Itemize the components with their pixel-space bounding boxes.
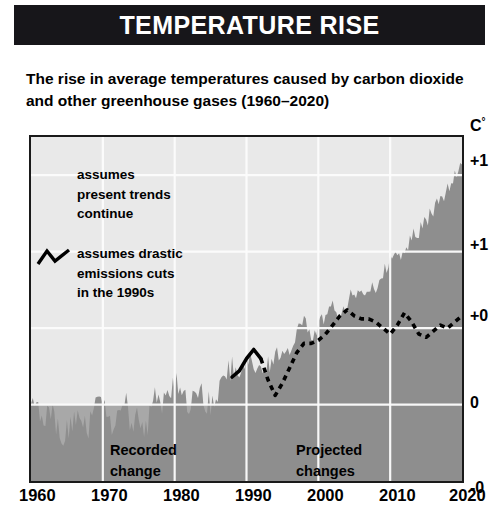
band-projected-line1: Projected <box>296 440 362 461</box>
band-label-recorded-change: Recorded change <box>110 440 177 481</box>
x-axis-tick-label: 2000 <box>307 486 344 505</box>
band-recorded-line2: change <box>110 461 177 482</box>
legend-emissions-cuts-line2: emissions cuts <box>77 264 183 284</box>
band-projected-line2: changes <box>296 461 362 482</box>
y-axis-tick-label: +1 <box>470 152 488 170</box>
temperature-rise-chart: C° +1 +1 +0 0 -0 1960 1970 1980 1990 200… <box>0 0 494 513</box>
legend-emissions-cuts-line3: in the 1990s <box>77 283 183 303</box>
legend-present-trends-line1: assumes <box>77 165 171 185</box>
zigzag-line-icon <box>36 248 71 268</box>
legend-present-trends-line2: present trends <box>77 185 171 205</box>
band-label-projected-changes: Projected changes <box>296 440 362 481</box>
x-axis-tick-label: 2020 <box>449 486 486 505</box>
y-axis-tick-label: 0 <box>470 394 479 412</box>
y-axis-tick-label: +1 <box>470 236 488 254</box>
x-axis-tick-label: 1960 <box>19 486 56 505</box>
legend-present-trends-line3: continue <box>77 204 171 224</box>
x-axis-tick-label: 1980 <box>163 486 200 505</box>
legend-item-emissions-cuts: assumes drastic emissions cuts in the 19… <box>77 244 183 303</box>
x-axis-tick-label: 1990 <box>235 486 272 505</box>
x-axis-tick-label: 2010 <box>379 486 416 505</box>
x-axis-tick-label: 1970 <box>91 486 128 505</box>
y-axis-unit: C° <box>470 116 486 135</box>
y-axis-tick-label: +0 <box>470 307 488 325</box>
legend-emissions-cuts-line1: assumes drastic <box>77 244 183 264</box>
band-recorded-line1: Recorded <box>110 440 177 461</box>
legend-item-present-trends: assumes present trends continue <box>77 165 171 224</box>
